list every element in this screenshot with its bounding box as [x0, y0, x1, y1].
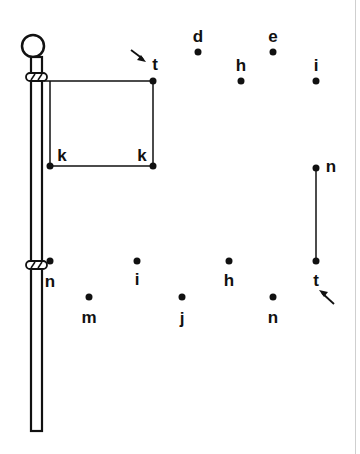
dot-e[interactable] — [270, 49, 277, 56]
rope-knot-top-icon — [26, 73, 47, 81]
label-h-top: h — [236, 57, 246, 74]
arrow-down-right-icon — [131, 50, 146, 62]
label-e: e — [268, 28, 277, 45]
dot-n-right[interactable] — [313, 165, 320, 172]
dot-h-bottom[interactable] — [226, 258, 233, 265]
dot-n-left[interactable] — [47, 258, 54, 265]
label-d: d — [193, 28, 203, 45]
dot-k-left[interactable] — [47, 163, 54, 170]
dot-i-bottom[interactable] — [134, 258, 141, 265]
label-k-right: k — [137, 147, 146, 164]
pole-shaft — [31, 57, 42, 431]
dot-h-top[interactable] — [238, 78, 245, 85]
dot-i-top[interactable] — [313, 78, 320, 85]
label-n-left: n — [45, 273, 55, 290]
rope-knot-bottom-icon — [26, 261, 47, 269]
dot-t-top[interactable] — [150, 78, 157, 85]
dot-k-right[interactable] — [150, 163, 157, 170]
arrow-up-left-icon — [319, 290, 334, 304]
finial-ball-icon — [22, 35, 44, 57]
label-h-bottom: h — [224, 272, 234, 289]
label-n-bottom: n — [268, 309, 278, 326]
dot-t-bottom[interactable] — [313, 258, 320, 265]
dot-d[interactable] — [195, 49, 202, 56]
label-k-left: k — [57, 147, 66, 164]
label-j: j — [180, 310, 185, 327]
dot-j[interactable] — [179, 294, 186, 301]
dot-n-bottom[interactable] — [270, 294, 277, 301]
label-i-bottom: i — [135, 271, 140, 288]
label-t-top: t — [152, 56, 158, 73]
label-m: m — [81, 309, 96, 326]
dot-to-dot-puzzle: t k k d e h i n n i h t m j n — [0, 0, 360, 454]
page-edge — [355, 0, 356, 454]
label-n-right: n — [326, 158, 336, 175]
label-t-bottom: t — [313, 272, 319, 289]
label-i-top: i — [314, 57, 319, 74]
flagpole-drawing — [0, 0, 360, 454]
dot-m[interactable] — [86, 294, 93, 301]
